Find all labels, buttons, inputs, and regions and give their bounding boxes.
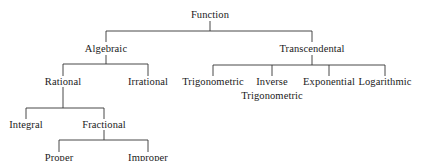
node-integral: Integral xyxy=(9,119,42,131)
node-algebraic: Algebraic xyxy=(85,43,127,55)
node-fractional: Fractional xyxy=(82,119,126,131)
node-trigonometric: Trigonometric xyxy=(182,76,244,88)
node-improper: Improper xyxy=(128,152,168,161)
node-inverse-trig-line1: Inverse xyxy=(241,76,303,88)
node-rational: Rational xyxy=(45,76,81,88)
node-inverse-trig-line2: Trigonometric xyxy=(241,90,303,102)
node-logarithmic: Logarithmic xyxy=(358,76,411,88)
node-transcendental: Transcendental xyxy=(279,43,344,55)
node-inverse-trigonometric: Inverse Trigonometric xyxy=(241,76,303,102)
node-irrational: Irrational xyxy=(128,76,168,88)
node-exponential: Exponential xyxy=(303,76,355,88)
node-proper: Proper xyxy=(45,152,74,161)
node-function: Function xyxy=(191,9,229,21)
